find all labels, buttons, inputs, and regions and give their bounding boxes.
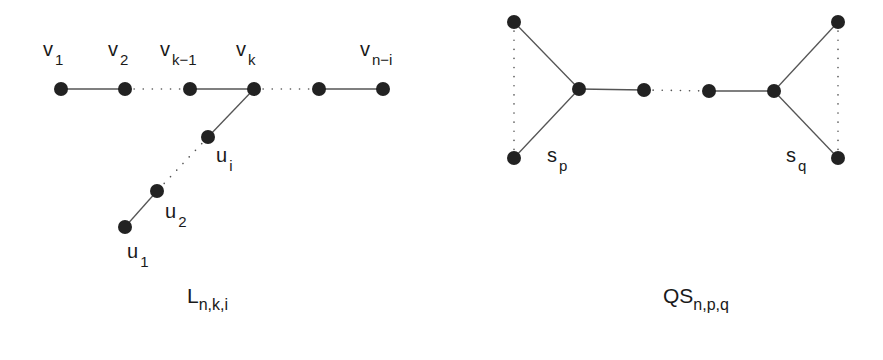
vertex-label: sp xyxy=(547,144,567,174)
edge xyxy=(514,22,579,89)
vertex-v2 xyxy=(118,82,132,96)
vertex-m2 xyxy=(702,84,716,98)
vertex-m1 xyxy=(637,83,651,97)
graph-QS-nodes xyxy=(507,15,845,165)
vertex-vk-1 xyxy=(183,82,197,96)
graph-L-vertex-labels: v1v2vk−1vkvn−iuiu2u1 xyxy=(43,38,392,270)
vertex-v1 xyxy=(54,82,68,96)
graph-L-caption-main: L xyxy=(187,284,199,307)
vertex-label: ui xyxy=(216,144,232,174)
vertex-lt xyxy=(507,15,521,29)
vertex-label: vk xyxy=(236,38,256,68)
vertex-rb xyxy=(831,151,845,165)
graph-QS-caption-main: QS xyxy=(663,284,693,307)
vertex-label: v2 xyxy=(108,38,128,68)
dotted-edge xyxy=(157,137,208,191)
dotted-edge xyxy=(644,90,709,91)
graph-QS-caption-sub: n,p,q xyxy=(693,296,729,313)
graph-QS-edges xyxy=(514,22,838,158)
graph-L-caption: Ln,k,i xyxy=(187,284,228,313)
graph-diagram-canvas: v1v2vk−1vkvn−iuiu2u1 Ln,k,i spsq QSn,p,q xyxy=(0,0,883,360)
edge xyxy=(774,22,838,91)
vertex-ui xyxy=(201,130,215,144)
graph-L-caption-sub: n,k,i xyxy=(199,296,228,313)
graph-QS-caption: QSn,p,q xyxy=(663,284,729,313)
vertex-lh xyxy=(572,82,586,96)
vertex-label: u2 xyxy=(165,200,186,230)
vertex-vx xyxy=(312,82,326,96)
vertex-rt xyxy=(831,15,845,29)
vertex-u1 xyxy=(118,220,132,234)
vertex-label: u1 xyxy=(127,240,148,270)
vertex-label: sq xyxy=(786,144,806,174)
vertex-label: vn−i xyxy=(360,38,392,68)
edge xyxy=(774,91,838,158)
vertex-u2 xyxy=(150,184,164,198)
vertex-rh xyxy=(767,84,781,98)
graph-QS-vertex-labels: spsq xyxy=(547,144,806,174)
edge xyxy=(579,89,644,90)
vertex-lb xyxy=(507,151,521,165)
vertex-label: vk−1 xyxy=(160,38,197,68)
vertex-vn-i xyxy=(376,82,390,96)
graph-L-n-k-i: v1v2vk−1vkvn−iuiu2u1 Ln,k,i xyxy=(43,38,392,313)
vertex-vk xyxy=(247,82,261,96)
edge xyxy=(125,191,157,227)
graph-QS-n-p-q: spsq QSn,p,q xyxy=(507,15,845,313)
vertex-label: v1 xyxy=(43,38,63,68)
edge xyxy=(208,89,254,137)
